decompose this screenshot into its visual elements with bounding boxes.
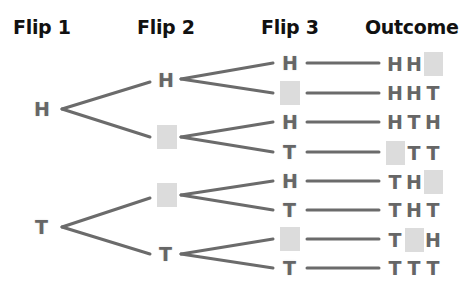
flip3-node: H [282,53,298,73]
outcome-letter: H [424,111,443,133]
flip2-blank-box[interactable] [157,125,177,149]
flip3-node: T [283,142,296,162]
flip3-blank-box[interactable] [280,227,300,251]
outcome-letter: T [424,142,443,164]
outcome-letter: H [386,82,405,104]
outcome-letter: H [405,53,424,75]
outcome-letter: H [386,111,405,133]
outcome-row: TTT [386,257,443,279]
header-flip-3: Flip 3 [261,16,319,38]
outcome-blank-box[interactable] [424,52,443,76]
outcome-letter: H [386,53,405,75]
outcome-letter: H [405,171,424,193]
outcome-letter: T [386,171,405,193]
outcome-row: TH [386,228,443,252]
header-outcome: Outcome [365,16,459,38]
flip3-blank-box[interactable] [280,81,300,105]
outcome-letter: H [405,82,424,104]
flip2-blank-box[interactable] [157,183,177,207]
header-flip-1: Flip 1 [13,16,71,38]
outcome-letter: T [424,257,443,279]
flip2-node: T [159,244,172,264]
outcome-row: TH [386,170,443,194]
flip3-node: T [283,258,296,278]
outcome-row: THT [386,199,443,221]
outcome-letter: T [386,229,405,251]
outcome-letter: T [386,257,405,279]
outcome-letter: T [424,82,443,104]
outcome-row: HHT [386,82,443,104]
flip3-node: T [283,200,296,220]
outcome-blank-box[interactable] [405,228,424,252]
outcome-letter: T [405,257,424,279]
header-flip-2: Flip 2 [137,16,195,38]
outcome-letter: H [424,229,443,251]
outcome-row: HTH [386,111,443,133]
outcome-row: HH [386,52,443,76]
flip3-node: H [282,171,298,191]
flip1-node: T [35,217,48,237]
outcome-letter: T [405,111,424,133]
outcome-blank-box[interactable] [424,170,443,194]
flip1-node: H [34,99,50,119]
outcome-letter: T [405,142,424,164]
outcome-blank-box[interactable] [386,141,405,165]
flip3-node: H [282,112,298,132]
outcome-letter: H [405,199,424,221]
outcome-letter: T [386,199,405,221]
outcome-letter: T [424,199,443,221]
outcome-row: TT [386,141,443,165]
flip2-node: H [158,70,174,90]
